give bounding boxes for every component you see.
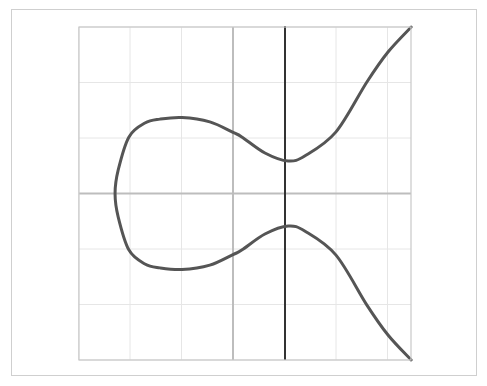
axes <box>79 27 411 360</box>
elliptic-curve-plot <box>0 0 487 386</box>
